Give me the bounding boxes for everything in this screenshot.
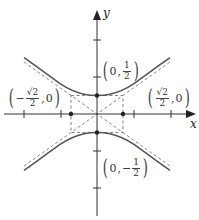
y-value: 0 bbox=[176, 93, 183, 104]
denominator: 2 bbox=[159, 99, 165, 108]
label-top-vertex: ( 0 , 1 2 ) bbox=[101, 60, 140, 82]
y-axis-label: y bbox=[103, 6, 110, 20]
label-right-point: ( √2 2 , 0 ) bbox=[146, 87, 191, 109]
right-point-dot bbox=[121, 112, 125, 116]
fraction: 1 2 bbox=[123, 61, 131, 81]
fraction: √2 2 bbox=[156, 88, 169, 108]
open-paren: ( bbox=[103, 60, 108, 82]
axes bbox=[4, 16, 190, 216]
hyperbola-diagram bbox=[0, 0, 199, 220]
denominator: 2 bbox=[30, 99, 36, 108]
x-value: 0 bbox=[110, 66, 117, 77]
close-paren: ) bbox=[143, 157, 148, 179]
y-value: 0 bbox=[46, 93, 53, 104]
vertex-bottom-dot bbox=[95, 130, 99, 134]
open-paren: ( bbox=[103, 157, 108, 179]
vertex-top-dot bbox=[95, 93, 99, 97]
close-paren: ) bbox=[184, 87, 189, 109]
separator: , bbox=[118, 163, 122, 174]
y-axis-arrow bbox=[93, 10, 101, 20]
numerator: 1 bbox=[132, 158, 140, 168]
minus-sign: − bbox=[122, 163, 131, 174]
label-left-point: ( − √2 2 , 0 ) bbox=[7, 87, 61, 109]
fraction: √2 2 bbox=[26, 88, 39, 108]
separator: , bbox=[171, 93, 175, 104]
denominator: 2 bbox=[124, 72, 130, 81]
close-paren: ) bbox=[55, 87, 60, 109]
separator: , bbox=[41, 93, 45, 104]
label-bottom-vertex: ( 0 , − 1 2 ) bbox=[101, 157, 150, 179]
x-axis-label: x bbox=[190, 117, 197, 131]
x-value: 0 bbox=[110, 163, 117, 174]
fraction: 1 2 bbox=[132, 158, 140, 178]
separator: , bbox=[118, 66, 122, 77]
denominator: 2 bbox=[133, 169, 139, 178]
numerator: √2 bbox=[156, 88, 169, 98]
open-paren: ( bbox=[9, 87, 14, 109]
numerator: 1 bbox=[123, 61, 131, 71]
open-paren: ( bbox=[148, 87, 153, 109]
numerator: √2 bbox=[26, 88, 39, 98]
close-paren: ) bbox=[134, 60, 139, 82]
left-point-dot bbox=[69, 112, 73, 116]
minus-sign: − bbox=[16, 93, 25, 104]
